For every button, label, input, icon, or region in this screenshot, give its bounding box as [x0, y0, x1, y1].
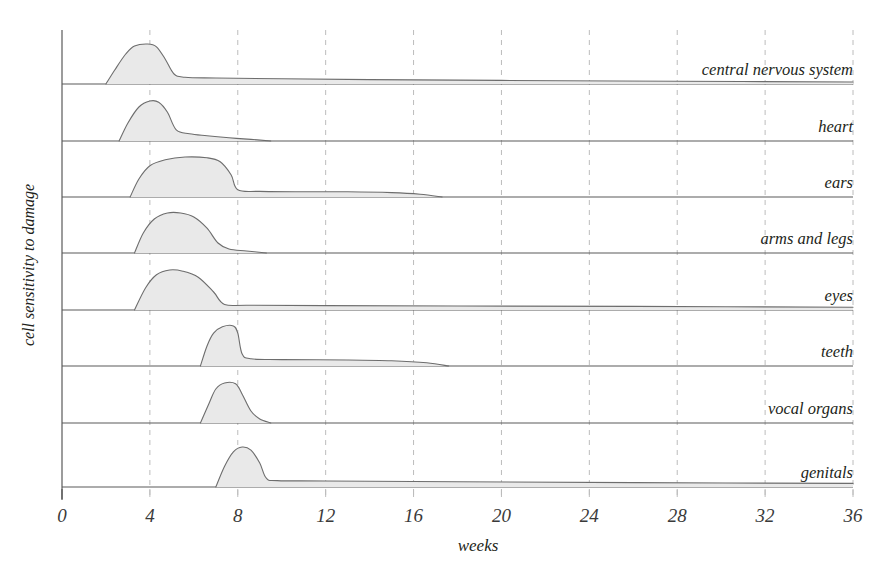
xtick-label-0: 0 — [57, 505, 67, 526]
series-label-teeth: teeth — [821, 342, 853, 361]
xtick-label-16: 16 — [404, 505, 424, 526]
area-fill-ears — [130, 157, 442, 197]
series-label-vocal-organs: vocal organs — [768, 399, 853, 418]
xtick-label-20: 20 — [492, 505, 512, 526]
curve-genitals — [216, 447, 853, 487]
chart-figure: central nervous systemheartearsarms and … — [0, 0, 896, 578]
gridlines-group — [150, 30, 853, 500]
organ-labels-group: central nervous systemheartearsarms and … — [702, 60, 854, 482]
sensitivity-chart: central nervous systemheartearsarms and … — [0, 0, 896, 578]
series-label-heart: heart — [818, 117, 853, 136]
xtick-label-4: 4 — [145, 505, 155, 526]
area-series-group — [106, 44, 853, 487]
area-fill-eyes — [135, 270, 853, 310]
series-label-central-nervous-system: central nervous system — [702, 60, 853, 79]
xtick-label-36: 36 — [843, 505, 864, 526]
xtick-label-24: 24 — [580, 505, 600, 526]
x-tick-group: 04812162024283236 — [57, 489, 863, 526]
x-axis-title: weeks — [458, 536, 499, 555]
y-axis-title: cell sensitivity to damage — [20, 184, 38, 346]
area-fill-vocal-organs — [200, 382, 270, 423]
xtick-label-8: 8 — [233, 505, 243, 526]
series-label-ears: ears — [825, 173, 853, 192]
curve-eyes — [135, 270, 853, 310]
xtick-label-32: 32 — [755, 505, 776, 526]
series-label-genitals: genitals — [801, 463, 853, 482]
xtick-label-28: 28 — [668, 505, 688, 526]
series-label-arms-and-legs: arms and legs — [760, 229, 853, 248]
xtick-label-12: 12 — [316, 505, 336, 526]
series-label-eyes: eyes — [825, 286, 853, 305]
